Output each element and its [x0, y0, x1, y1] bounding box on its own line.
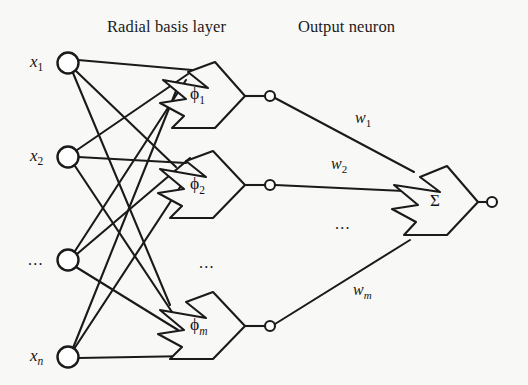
- edge-x1-phim: [73, 73, 170, 305]
- input-node-xn: [58, 347, 79, 368]
- input-label-x1: x1: [30, 53, 43, 70]
- weight-label-wm: wm: [353, 282, 372, 298]
- neuron-label-phi2-base: ϕ: [190, 173, 199, 193]
- input-label-ellipsis: ...: [28, 252, 44, 268]
- hidden-out-phi2: [265, 180, 275, 190]
- hidden-layer-ellipsis: ...: [199, 255, 215, 271]
- summation-label: Σ: [430, 192, 440, 209]
- edge-wm: [275, 240, 410, 324]
- input-label-x1-sub: 1: [38, 61, 44, 73]
- edge-w2: [275, 185, 404, 191]
- output-section-ellipsis: ...: [335, 216, 351, 232]
- neuron-label-phi1-sub: 1: [199, 94, 205, 106]
- neuron-label-phim-base: ϕ: [190, 314, 199, 334]
- input-label-x1-base: x: [30, 52, 38, 71]
- input-label-x2-base: x: [30, 146, 38, 165]
- hidden-to-output-edges: [275, 98, 414, 324]
- edge-x2-phim: [75, 166, 172, 312]
- network-output-circle: [487, 197, 497, 207]
- hidden-out-phi1: [265, 91, 275, 101]
- neuron-label-phim: ϕm: [190, 316, 208, 334]
- input-node-x2: [58, 147, 79, 168]
- input-node-x1: [58, 53, 79, 74]
- neuron-label-phi1: ϕ1: [190, 85, 205, 103]
- neuron-label-phi2-sub: 2: [199, 184, 205, 196]
- weight-label-w1-sub: 1: [366, 117, 372, 129]
- weight-label-w2-base: w: [331, 155, 342, 172]
- weight-label-w2-sub: 2: [342, 163, 348, 175]
- weight-label-w1-base: w: [355, 109, 366, 126]
- header-radial-basis-layer: Radial basis layer: [107, 17, 226, 37]
- neuron-label-phi1-base: ϕ: [190, 83, 199, 103]
- input-label-xn-base: x: [30, 346, 38, 365]
- weight-label-w1: w1: [355, 110, 371, 126]
- neuron-label-phim-sub: m: [199, 325, 207, 337]
- input-node-xdots: [58, 250, 79, 271]
- input-label-x2-sub: 2: [38, 155, 44, 167]
- hidden-out-phim: [265, 321, 275, 331]
- input-label-xn-sub: n: [38, 355, 44, 367]
- hidden-output-circles: [265, 91, 275, 331]
- edge-xn-phi1: [73, 86, 178, 348]
- neuron-label-phi2: ϕ2: [190, 175, 205, 193]
- header-output-neuron: Output neuron: [298, 17, 395, 37]
- input-label-x2: x2: [30, 147, 43, 164]
- weight-label-wm-base: w: [353, 281, 364, 298]
- edge-x1-phi1: [78, 60, 192, 70]
- weight-label-wm-sub: m: [364, 289, 372, 301]
- input-node-circles: [58, 53, 79, 368]
- hidden-output-stubs: [245, 96, 265, 326]
- weight-label-w2: w2: [331, 156, 347, 172]
- input-label-xn: xn: [30, 347, 43, 364]
- network-graphics: [0, 0, 528, 385]
- rbf-network-diagram: Radial basis layer Output neuron x1 x2 .…: [0, 0, 528, 385]
